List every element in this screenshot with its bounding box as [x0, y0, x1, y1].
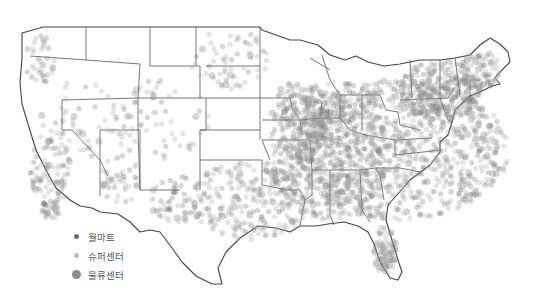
supercenter-dot-icon: [74, 253, 79, 258]
distribution-center-dot-icon: [72, 270, 81, 279]
legend-label-distribution-center: 물류센터: [88, 268, 124, 282]
legend-label-supercenter: 슈퍼센터: [88, 249, 124, 263]
legend-item-walmart: 월마트: [72, 227, 124, 246]
walmart-dot-icon: [74, 234, 79, 239]
legend-label-walmart: 월마트: [88, 230, 115, 244]
map-legend: 월마트 슈퍼센터 물류센터: [72, 227, 124, 284]
legend-item-distribution-center: 물류센터: [72, 265, 124, 284]
legend-item-supercenter: 슈퍼센터: [72, 246, 124, 265]
